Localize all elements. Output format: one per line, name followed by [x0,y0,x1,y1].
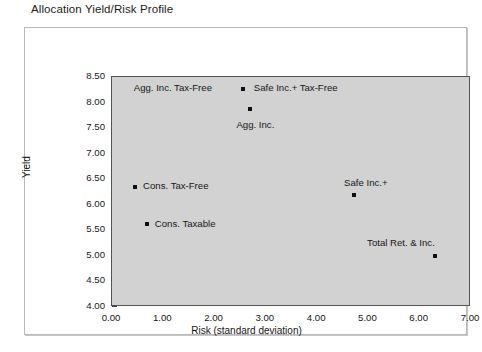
y-tick-label: 4.00 [63,301,105,311]
x-tick-label: 6.00 [394,313,444,323]
y-tick-label: 5.00 [63,250,105,260]
data-point-label: Agg. Inc. Tax-Free [134,83,212,93]
y-tick-label: 6.50 [63,173,105,183]
page-title: Allocation Yield/Risk Profile [31,3,173,15]
chart-panel: Yield Risk (standard deviation) 4.004.50… [24,27,467,335]
data-point [352,193,356,197]
x-tick-label: 5.00 [342,313,392,323]
y-tick-mark [112,306,117,307]
data-point [133,185,137,189]
data-point [433,254,437,258]
data-point [241,87,245,91]
x-tick-label: 0.00 [86,313,136,323]
y-tick-label: 7.00 [63,148,105,158]
data-point-label: Safe Inc.+ [344,178,387,188]
x-tick-label: 7.00 [445,313,482,323]
y-tick-label: 5.50 [63,224,105,234]
y-tick-label: 8.00 [63,97,105,107]
data-point-label: Total Ret. & Inc. [367,238,435,248]
data-point-label: Agg. Inc. [236,120,274,130]
y-tick-label: 7.50 [63,122,105,132]
x-tick-label: 2.00 [189,313,239,323]
data-point-label: Cons. Taxable [155,219,216,229]
x-tick-label: 3.00 [240,313,290,323]
y-tick-label: 4.50 [63,275,105,285]
data-point [248,107,252,111]
data-point-label: Cons. Tax-Free [143,181,208,191]
y-axis-label: Yield [21,156,32,178]
x-tick-label: 1.00 [137,313,187,323]
x-axis-label: Risk (standard deviation) [25,325,468,336]
x-tick-label: 4.00 [291,313,341,323]
data-point [145,222,149,226]
y-tick-label: 8.50 [63,71,105,81]
data-point-label: Safe Inc.+ Tax-Free [254,83,338,93]
y-tick-label: 6.00 [63,199,105,209]
plot-area [111,76,470,306]
